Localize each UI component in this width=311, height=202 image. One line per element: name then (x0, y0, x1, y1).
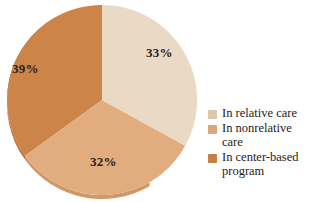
legend-label-relative-care: In relative care (222, 106, 297, 120)
pie-chart-area: 33% 32% 39% (0, 0, 205, 202)
chart-legend: In relative care In nonrelative care In … (208, 106, 311, 179)
legend-item-relative-care[interactable]: In relative care (208, 106, 311, 120)
pie-label-nonrelative-care: 32% (90, 155, 117, 168)
legend-swatch-center-based (208, 154, 217, 163)
pie-chart-figure: 33% 32% 39% In relative care In nonrelat… (0, 0, 311, 202)
legend-item-nonrelative-care[interactable]: In nonrelative care (208, 121, 311, 149)
legend-swatch-nonrelative-care (208, 125, 217, 134)
legend-label-center-based: In center-based program (222, 150, 310, 178)
pie-label-center-based: 39% (12, 62, 39, 75)
legend-swatch-relative-care (208, 110, 217, 119)
pie-label-relative-care: 33% (146, 46, 173, 59)
legend-label-nonrelative-care: In nonrelative care (222, 121, 310, 149)
pie-chart-svg (0, 0, 205, 202)
legend-item-center-based[interactable]: In center-based program (208, 150, 311, 178)
